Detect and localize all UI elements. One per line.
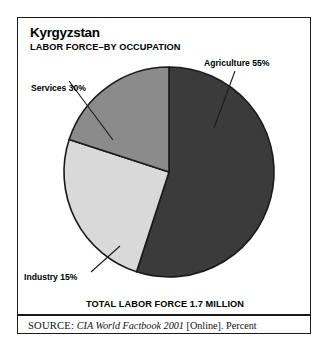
- total-labor-force-caption: TOTAL LABOR FORCE 1.7 MILLION: [18, 299, 311, 309]
- figure-frame: Kyrgyzstan LABOR FORCE–BY OCCUPATION Agr…: [17, 17, 311, 334]
- slice-label-services: Services 30%: [31, 83, 86, 93]
- slice-label-industry: Industry 15%: [24, 272, 78, 282]
- source-divider: [18, 314, 311, 316]
- source-kicker: SOURCE:: [28, 320, 74, 331]
- source-publication: CIA World Factbook 2001: [77, 320, 184, 331]
- source-note: SOURCE: CIA World Factbook 2001 [Online]…: [28, 319, 302, 334]
- slice-label-agriculture: Agriculture 55%: [204, 58, 269, 68]
